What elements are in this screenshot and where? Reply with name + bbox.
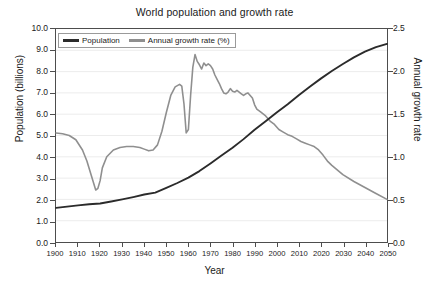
y-axis-left-tick-mark — [50, 222, 55, 223]
y-axis-left-label: Population (billions) — [14, 19, 25, 179]
x-axis-tick-mark — [166, 243, 167, 247]
y-axis-right-tick-mark — [388, 200, 393, 201]
y-axis-left-tick-label: 2.0 — [8, 195, 48, 205]
plot-area — [55, 28, 388, 243]
y-axis-left-tick-mark — [50, 71, 55, 72]
y-axis-right-tick-mark — [388, 28, 393, 29]
x-axis-tick-mark — [277, 243, 278, 247]
y-axis-left-tick-mark — [50, 50, 55, 51]
x-axis-tick-mark — [99, 243, 100, 247]
x-axis-tick-mark — [255, 243, 256, 247]
x-axis-label: Year — [0, 265, 429, 276]
x-axis-tick-mark — [344, 243, 345, 247]
y-axis-right-label: Annual growth rate — [412, 20, 423, 180]
x-axis-tick-mark — [210, 243, 211, 247]
legend-item-population: Population — [63, 36, 120, 45]
series-line-population — [56, 44, 387, 208]
chart-figure: World population and growth rate Populat… — [0, 0, 429, 287]
legend-label-annual-growth-rate: Annual growth rate (%) — [148, 36, 230, 45]
x-axis-tick-mark — [77, 243, 78, 247]
gridlines — [56, 50, 387, 220]
y-axis-left-tick-mark — [50, 93, 55, 94]
x-axis-tick-mark — [366, 243, 367, 247]
legend-label-population: Population — [82, 36, 120, 45]
x-axis-tick-mark — [55, 243, 56, 247]
y-axis-left-tick-mark — [50, 28, 55, 29]
x-axis-tick-label: 2050 — [373, 249, 403, 258]
y-axis-left-tick-mark — [50, 200, 55, 201]
y-axis-left-tick-mark — [50, 136, 55, 137]
plot-lines — [56, 29, 387, 242]
x-axis-tick-mark — [233, 243, 234, 247]
legend-swatch-annual-growth-rate — [129, 39, 145, 42]
y-axis-left-tick-mark — [50, 114, 55, 115]
x-axis-tick-mark — [188, 243, 189, 247]
y-axis-right-tick-mark — [388, 157, 393, 158]
y-axis-left-tick-label: 0.0 — [8, 238, 48, 248]
x-axis-tick-mark — [388, 243, 389, 247]
x-axis-tick-mark — [299, 243, 300, 247]
y-axis-right-tick-label: 0.0 — [393, 238, 423, 248]
legend-swatch-population — [63, 39, 79, 42]
x-axis-tick-mark — [122, 243, 123, 247]
y-axis-left-tick-label: 1.0 — [8, 216, 48, 226]
legend-item-annual-growth-rate: Annual growth rate (%) — [129, 36, 230, 45]
y-axis-left-tick-mark — [50, 157, 55, 158]
chart-legend: Population Annual growth rate (%) — [58, 33, 236, 48]
chart-title: World population and growth rate — [0, 6, 429, 18]
x-axis-tick-mark — [144, 243, 145, 247]
y-axis-right-tick-label: 0.5 — [393, 195, 423, 205]
y-axis-left-tick-mark — [50, 179, 55, 180]
y-axis-right-tick-mark — [388, 114, 393, 115]
y-axis-right-tick-mark — [388, 71, 393, 72]
x-axis-tick-mark — [321, 243, 322, 247]
